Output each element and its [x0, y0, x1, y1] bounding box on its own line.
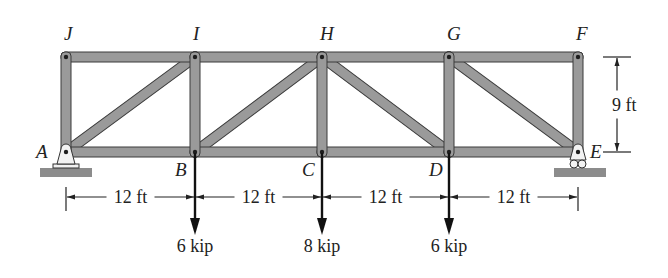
joint-label-D: D	[428, 159, 443, 180]
joint-label-B: B	[175, 159, 187, 180]
member-DG	[444, 52, 454, 157]
joint-pin-F	[576, 55, 580, 59]
ground-hatch	[554, 168, 606, 177]
load-label: 8 kip	[304, 236, 341, 256]
joint-label-G: G	[447, 23, 461, 44]
dimension-label: 12 ft	[242, 187, 276, 207]
member-BI	[190, 52, 200, 157]
dimension-CD: 12 ft	[323, 187, 448, 207]
member-GE	[442, 50, 585, 159]
load-label: 6 kip	[177, 236, 214, 256]
truss-figure: JIHGFABCDE 12 ft12 ft12 ft12 ft9 ft 6 ki…	[0, 0, 668, 278]
dimension-DE: 12 ft	[450, 187, 577, 207]
dimension-height: 9 ft	[603, 57, 637, 152]
joint-pin-E	[576, 150, 580, 154]
member-HD	[315, 50, 456, 159]
joint-label-J: J	[64, 23, 74, 44]
joint-pin-G	[447, 55, 451, 59]
member-IH	[190, 52, 327, 62]
member-BH	[188, 50, 329, 159]
joint-label-F: F	[575, 23, 588, 44]
dimension-label: 12 ft	[369, 187, 403, 207]
truss-diagram: JIHGFABCDE 12 ft12 ft12 ft12 ft9 ft 6 ki…	[0, 0, 668, 278]
load-arrows: 6 kip8 kip6 kip	[177, 153, 468, 256]
dimension-AB: 12 ft	[67, 187, 194, 207]
joint-label-A: A	[34, 141, 48, 162]
member-GF	[444, 52, 583, 62]
joint-label-I: I	[192, 23, 201, 44]
dimension-label-height: 9 ft	[612, 95, 637, 115]
member-EF	[573, 52, 583, 157]
dimension-label: 12 ft	[497, 187, 531, 207]
member-AJ	[61, 52, 71, 157]
joint-label-E: E	[589, 141, 602, 162]
member-HG	[317, 52, 454, 62]
member-BC	[190, 147, 327, 157]
joint-pin-H	[320, 55, 324, 59]
dimension-label: 12 ft	[114, 187, 148, 207]
load-label: 6 kip	[431, 236, 468, 256]
joint-pin-A	[64, 150, 68, 154]
ground-hatch	[40, 168, 92, 177]
member-CH	[317, 52, 327, 157]
joint-label-H: H	[319, 23, 335, 44]
joint-pin-I	[193, 55, 197, 59]
dimension-BC: 12 ft	[196, 187, 321, 207]
member-CD	[317, 147, 454, 157]
joint-pin-J	[64, 55, 68, 59]
member-DE	[444, 147, 583, 157]
truss-members	[59, 50, 585, 159]
member-AI	[59, 50, 202, 159]
member-JI	[61, 52, 200, 62]
member-AB	[61, 147, 200, 157]
joint-label-C: C	[302, 159, 315, 180]
